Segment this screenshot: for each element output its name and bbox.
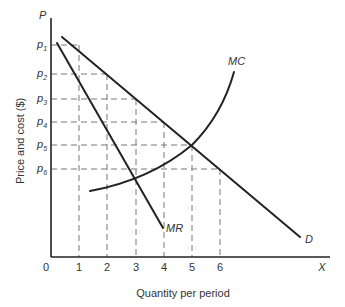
demand-curve <box>62 37 300 237</box>
monopoly-diagram: MC MR D P p1 p2 p3 p4 p5 p6 Price and co… <box>0 0 345 307</box>
tick-q6: 6 <box>217 261 223 273</box>
price-label-p3: p3 <box>36 92 47 106</box>
tick-q1: 1 <box>76 261 82 273</box>
d-label: D <box>305 233 313 245</box>
price-label-p5: p5 <box>36 138 47 152</box>
price-label-p4: p4 <box>36 115 47 129</box>
price-labels: p1 p2 p3 p4 p5 p6 <box>36 38 47 176</box>
price-label-p1: p1 <box>36 38 47 52</box>
mr-label: MR <box>166 222 183 234</box>
x-axis-title: Quantity per period <box>136 287 230 299</box>
tick-q4: 4 <box>161 261 167 273</box>
y-axis-symbol: P <box>39 9 47 21</box>
tick-q2: 2 <box>104 261 110 273</box>
marginal-cost-curve <box>90 72 234 191</box>
price-label-p2: p2 <box>36 67 47 81</box>
mc-label: MC <box>228 55 245 67</box>
curves <box>57 37 300 237</box>
quantity-tick-labels: 0 1 2 3 4 5 6 X <box>43 261 326 273</box>
tick-q3: 3 <box>133 261 139 273</box>
x-axis-symbol: X <box>317 261 326 273</box>
origin-label: 0 <box>43 261 49 273</box>
axes <box>51 18 330 257</box>
marginal-revenue-curve <box>57 43 163 228</box>
tick-q5: 5 <box>189 261 195 273</box>
price-label-p6: p6 <box>36 162 47 176</box>
y-axis-title: Price and cost ($) <box>14 98 26 184</box>
